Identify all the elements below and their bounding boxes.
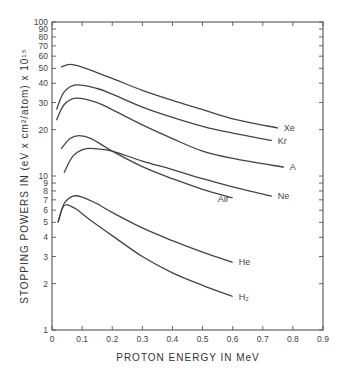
x-tick-label: 0.2 — [106, 334, 118, 344]
x-tick-label: 0.7 — [257, 334, 269, 344]
y-tick-label: 7 — [43, 195, 48, 205]
curve-ne — [64, 148, 272, 196]
y-tick-label: 6 — [43, 205, 48, 215]
y-tick-label: 60 — [39, 51, 49, 61]
curve-air — [61, 136, 233, 198]
y-tick-label: 100 — [34, 17, 48, 27]
x-tick-label: 0.8 — [287, 334, 299, 344]
y-tick-label: 20 — [39, 125, 49, 135]
x-tick-label: 0 — [50, 334, 55, 344]
y-tick-label: 3 — [43, 252, 48, 262]
x-tick-label: 0.6 — [227, 334, 239, 344]
y-axis-label: STOPPING POWERS IN (eV x cm²/atom) x 10¹… — [19, 48, 30, 304]
y-tick-label: 10 — [39, 171, 49, 181]
x-tick-label: 0.3 — [136, 334, 148, 344]
y-tick-label: 4 — [43, 232, 48, 242]
x-tick-label: 0.4 — [167, 334, 179, 344]
series-label-a: A — [290, 162, 296, 172]
series-label-air: Air — [218, 194, 229, 204]
curve-h₂ — [58, 205, 233, 297]
x-tick-label: 0.5 — [197, 334, 209, 344]
x-tick-label: 0.9 — [317, 334, 329, 344]
curve-kr — [57, 85, 272, 141]
series-label-h₂: H₂ — [239, 292, 249, 302]
curve-xe — [61, 64, 278, 128]
x-tick-label: 0.1 — [76, 334, 88, 344]
curve-a — [57, 98, 284, 167]
y-tick-label: 1 — [43, 325, 48, 335]
y-tick-label: 30 — [39, 98, 49, 108]
y-tick-label: 2 — [43, 279, 48, 289]
x-axis-label: PROTON ENERGY IN MeV — [116, 352, 260, 363]
y-tick-label: 50 — [39, 63, 49, 73]
curve-he — [58, 196, 233, 263]
y-tick-label: 70 — [39, 41, 49, 51]
plot-frame — [52, 22, 323, 330]
series-label-ne: Ne — [278, 191, 290, 201]
stopping-power-chart: 00.10.20.30.40.50.60.70.80.9123456789102… — [0, 0, 347, 381]
series-label-he: He — [239, 257, 251, 267]
curves: XeKrAAirNeHeH₂ — [57, 64, 296, 301]
series-label-kr: Kr — [278, 136, 287, 146]
y-tick-label: 40 — [39, 78, 49, 88]
y-tick-label: 5 — [43, 217, 48, 227]
series-label-xe: Xe — [284, 123, 295, 133]
